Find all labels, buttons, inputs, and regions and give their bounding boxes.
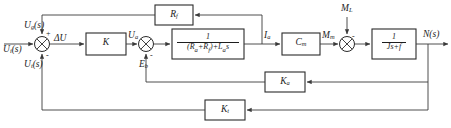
armature-denominator: (Ra+Rf)+Las xyxy=(174,42,242,53)
label-error-signal: ΔU xyxy=(54,34,66,44)
label-tach-feedback-signal: Ut(s) xyxy=(24,60,43,70)
label-control-voltage-signal: Ua xyxy=(128,31,138,41)
label-back-emf-signal: Eb xyxy=(139,60,148,70)
label-block-generator-feedback-gain: Rf xyxy=(155,10,193,20)
label-block-back-emf-feedback-gain: Ka xyxy=(265,77,305,87)
label-block-mechanical-transfer-function: 1 Js+f xyxy=(374,33,414,51)
label-motor-torque-signal: Mm xyxy=(322,31,335,41)
armature-numerator: 1 xyxy=(174,33,242,42)
label-block-torque-constant: Cm xyxy=(282,38,320,48)
sign-sum1-top: + xyxy=(46,30,51,38)
label-block-tachometer-feedback-gain: Kt xyxy=(205,105,245,115)
label-block-amplifier-gain: K xyxy=(86,38,126,48)
sign-sum2-bottom: - xyxy=(150,52,153,60)
block-diagram: Ug(s) Ui(s) Ut(s) ΔU Ua Eb Ia Mm ML N(s)… xyxy=(0,0,451,128)
sign-sum3-right: - xyxy=(352,33,355,41)
label-output-signal: N(s) xyxy=(423,30,439,40)
mech-denominator: Js+f xyxy=(374,42,414,51)
label-load-torque-signal: ML xyxy=(341,4,353,14)
sign-sum1-bottom: - xyxy=(46,52,49,60)
mech-numerator: 1 xyxy=(374,33,414,42)
label-armature-current-signal: Ia xyxy=(264,31,270,41)
label-input-signal: Ui(s) xyxy=(3,45,22,55)
label-generator-feedback-signal: Ug(s) xyxy=(24,21,44,31)
label-block-armature-transfer-function: 1 (Ra+Rf)+Las xyxy=(174,33,242,53)
